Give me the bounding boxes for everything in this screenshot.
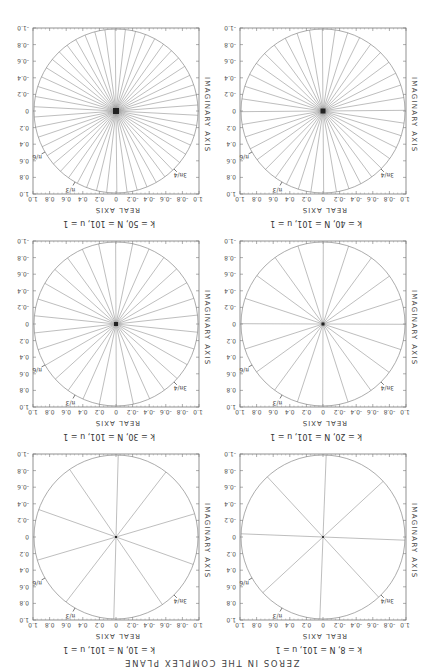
x-tick-label: 0 [114,622,118,629]
zero-locus-line [95,32,116,111]
zero-cluster [322,536,324,538]
zero-locus-line [116,111,127,192]
zero-locus-line [55,324,116,379]
zero-locus-line [42,111,116,147]
y-tick-label: 0 [232,321,236,328]
zero-locus-line [38,324,116,350]
x-tick-label: 0 [114,196,118,203]
zero-locus-line [85,35,116,111]
y-tick-label: 0 [232,534,236,541]
angle-marker [42,578,45,580]
x-tick-label: 0 [321,622,325,629]
y-tick-label: 0.6 [19,584,29,591]
panel-k10: k = 10, N = 101, u = 1 REAL AXISIMAGINAR… [0,442,203,654]
zero-locus-line [257,111,323,160]
x-tick-label: 0.6 [61,622,71,629]
zero-locus-line [297,33,323,111]
zero-locus-line [275,324,323,390]
zero-locus-line [323,258,371,324]
zero-locus-line [323,111,372,177]
zero-locus-line [245,324,323,349]
angle-annotation: π/3 [273,400,283,407]
x-tick-label: 1.0 [235,409,245,416]
x-tick-label: -0.8 [383,622,395,629]
zero-locus-line [250,111,323,149]
y-tick-label: 0.8 [226,387,236,394]
x-tick-label: -0.8 [176,409,188,416]
zero-locus-line [298,246,323,324]
x-tick-label: -1.0 [193,409,203,416]
x-tick-label: 0.2 [301,196,311,203]
y-tick-label: 0.8 [226,600,236,607]
y-tick-label: 0.2 [19,125,29,132]
zero-locus-line [53,111,116,164]
zero-locus-line [310,30,323,111]
zero-locus-line [297,324,323,402]
zero-locus-line [242,111,323,124]
y-tick-label: 0.6 [226,158,236,165]
y-axis-label: IMAGINARY AXIS [410,290,418,366]
zero-locus-line [116,249,149,324]
y-tick-label: 0.8 [226,174,236,181]
plot-area: -1.0-0.8-0.6-0.4-0.200.20.40.60.81.01.00… [0,16,203,228]
plot-area: -1.0-0.8-0.6-0.4-0.200.20.40.60.81.01.00… [0,229,203,441]
y-tick-label: -0.6 [224,484,236,491]
x-tick-label: -0.4 [350,409,362,416]
zero-locus-line [115,29,116,111]
angle-annotation: π/6 [239,154,249,161]
zero-locus-line [323,324,401,350]
y-tick-label: -0.6 [17,58,29,65]
x-tick-label: -0.4 [143,196,155,203]
y-tick-label: -0.4 [17,501,29,508]
y-tick-label: 1.0 [19,191,29,198]
y-tick-label: 0.6 [19,158,29,165]
zero-cluster [114,322,118,326]
angle-annotation: 3π/4 [381,598,394,605]
zero-locus-line [67,45,116,111]
y-tick-label: -1.0 [17,25,29,32]
zero-locus-line [256,324,323,372]
y-tick-label: -0.8 [17,468,29,475]
zero-locus-line [323,111,390,159]
zero-locus-line [323,111,324,193]
x-tick-label: -1.0 [193,196,203,203]
zero-locus-line [323,44,371,111]
y-tick-label: 0.2 [226,338,236,345]
x-tick-label: 0.8 [252,409,262,416]
y-tick-label: 0.8 [19,387,29,394]
x-tick-label: -1.0 [400,622,410,629]
zero-locus-line [114,537,116,619]
zero-locus-line [323,324,371,391]
zero-locus-line [322,29,323,111]
x-tick-label: 0.8 [252,196,262,203]
zero-locus-line [116,111,137,190]
y-tick-label: -0.8 [224,468,236,475]
zero-cluster [321,109,326,114]
zero-locus-line [323,299,401,324]
y-tick-label: -0.2 [17,517,29,524]
x-tick-label: -0.2 [334,409,346,416]
y-tick-label: -0.4 [224,501,236,508]
x-tick-label: 1.0 [28,196,38,203]
zero-locus-line [116,324,150,399]
angle-annotation: π/3 [66,613,76,620]
y-tick-label: -0.2 [224,304,236,311]
y-tick-label: -1.0 [224,238,236,245]
zero-locus-line [245,111,323,137]
y-tick-label: 0.4 [19,567,29,574]
y-axis-label: IMAGINARY AXIS [410,77,418,153]
y-tick-label: -0.8 [17,42,29,49]
plot-area: -1.0-0.8-0.6-0.4-0.200.20.40.60.81.01.00… [205,16,410,228]
y-axis-label: IMAGINARY AXIS [410,503,418,579]
x-tick-label: 1.0 [235,622,245,629]
zero-locus-line [116,269,177,324]
plot-area: -1.0-0.8-0.6-0.4-0.200.20.40.60.81.01.00… [205,442,410,654]
y-tick-label: -0.8 [17,255,29,262]
angle-annotation: 3π/4 [174,598,187,605]
zero-locus-line [323,73,396,111]
panel-k30: k = 30, N = 101, u = 1 REAL AXISIMAGINAR… [0,229,203,441]
y-tick-label: 0.4 [226,354,236,361]
x-tick-label: 0.4 [78,622,88,629]
zero-locus-line [323,455,326,537]
plot-area: -1.0-0.8-0.6-0.4-0.200.20.40.60.81.01.00… [205,229,410,441]
